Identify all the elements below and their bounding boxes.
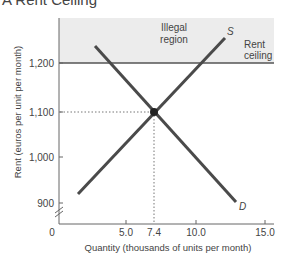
demand-label: D — [239, 201, 246, 212]
rent-ceiling-label-2: ceiling — [244, 50, 272, 61]
x-tick-label-5: 5.0 — [119, 227, 133, 238]
y-ticks — [59, 63, 63, 203]
y-tick-label-1200: 1,200 — [29, 58, 54, 69]
supply-label: S — [227, 26, 234, 37]
y-tick-label-1100: 1,100 — [29, 107, 54, 118]
x-tick-label-10: 10.0 — [186, 227, 206, 238]
demand-curve — [95, 46, 236, 202]
y-tick-label-900: 900 — [37, 198, 54, 209]
y-tick-label-1000: 1,000 — [29, 152, 54, 163]
x-tick-label-15: 15.0 — [255, 227, 275, 238]
equilibrium-point — [150, 108, 158, 116]
y-axis-title: Rent (euros per unit per month) — [12, 46, 23, 179]
origin-label: 0 — [49, 227, 55, 238]
illegal-region-label-2: region — [160, 34, 188, 45]
x-ticks — [126, 220, 265, 224]
x-tick-label-7-4: 7.4 — [147, 227, 161, 238]
x-axis-title: Quantity (thousands of units per month) — [85, 242, 252, 253]
illegal-region-label-1: Illegal — [161, 22, 187, 33]
rent-ceiling-label-1: Rent — [244, 39, 265, 50]
rent-ceiling-chart: Illegal region Rent ceiling S D 1,200 1,… — [0, 0, 290, 261]
